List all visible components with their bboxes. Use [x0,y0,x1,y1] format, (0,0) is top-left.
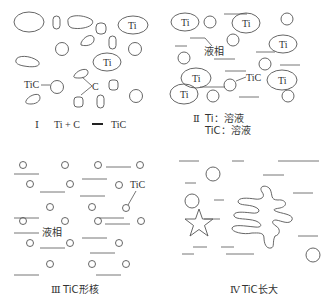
caption-tic-growth: TiC长大 [241,283,278,295]
tic-nucleus [123,261,130,268]
tic-nucleus [116,182,123,189]
panel-3-tic-nucleation: TiC 液相 Ⅲ TiC形核 [14,162,146,296]
tic-nucleus [89,204,96,211]
ti-particle [81,36,94,46]
ti-particle [26,94,40,104]
tic-particle [306,248,320,262]
tic-pointer [128,191,136,205]
caption-tic-nucleation: TiC形核 [62,283,99,295]
panel-1-ti-plus-c: Ti Ti TiC C Ⅰ Ti + C TiC [14,12,148,130]
ti-label: Ti [128,20,137,31]
ti-label: Ti [180,89,189,100]
tic-nucleus [67,181,74,188]
tic-nucleus [27,181,34,188]
liquid-pointer [205,38,212,46]
tic-particle [281,13,293,25]
c-pointer [82,77,92,86]
panel-2-dissolution: Ti Ti Ti 液相 Ti Ti TiC Ti Ⅱ Ti：溶液 T [170,13,300,136]
tic-nucleus [20,218,27,225]
tic-pointer [236,77,246,81]
liquid-phase-label: 液相 [42,226,62,238]
caption-tic-solution: TiC：溶液 [204,124,251,136]
tic-dendrite-crystal [232,186,292,248]
tic-formation-diagram: Ti Ti TiC C Ⅰ Ti + C TiC Ti Ti [0,0,331,307]
ti-particle [68,16,93,29]
tic-particle [130,90,143,103]
panel-numeral: Ⅲ [51,284,61,295]
ti-label: Ti [279,39,288,50]
tic-label: TiC [246,72,262,83]
tic-particle [207,90,219,102]
tic-nucleus [137,162,144,169]
liquid-phase-label: 液相 [204,45,224,57]
ti-label: Ti [242,18,251,29]
tic-nucleus [123,205,130,212]
c-particle [74,69,88,78]
caption-product: TiC [111,119,127,130]
tic-particle [129,43,142,56]
ti-label: Ti [278,75,287,86]
c-particle [97,95,104,108]
tic-nucleus [67,240,74,247]
tic-nucleus [95,162,102,169]
ti-label: Ti [181,17,190,28]
tic-nucleus [89,261,96,268]
tic-particle [185,194,199,208]
ti-particle [14,12,44,32]
ti-particle [16,56,39,66]
c-label: C [92,81,99,92]
tic-particle [282,90,294,102]
tic-nucleus [62,218,69,225]
tic-particle [51,81,64,94]
tic-particle [259,58,271,70]
tic-particle [227,34,239,46]
panel-4-tic-growth: Ⅳ TiC长大 [179,161,320,295]
tic-particle-labeled [224,79,236,91]
c-particle [109,80,118,90]
c-particle [53,16,60,29]
tic-label: TiC [130,179,146,190]
tic-nucleus [138,218,145,225]
tic-particle [178,52,190,64]
tic-label: TiC [24,79,40,90]
panel-numeral: Ⅰ [35,119,39,130]
tic-nucleus [20,162,27,169]
tic-particle [204,16,216,28]
tic-nucleus [116,240,123,247]
tic-nucleus [47,204,54,211]
c-particle [74,97,83,107]
tic-nucleus [47,261,54,268]
caption-reactants: Ti + C [54,119,80,130]
ti-label: Ti [103,57,112,68]
panel-numeral: Ⅱ [193,113,200,124]
ti-label: Ti [192,73,201,84]
tic-nucleus [62,162,69,169]
tic-particle [206,167,220,181]
c-pointer [81,86,92,95]
tic-nucleus [95,218,102,225]
tic-particle [56,43,69,56]
c-particle [109,36,116,49]
tic-nucleus [27,240,34,247]
tic-star-crystal [185,209,213,236]
c-particle [96,23,106,34]
panel-numeral: Ⅳ [230,284,241,295]
caption-ti-solution: Ti：溶液 [204,112,244,124]
